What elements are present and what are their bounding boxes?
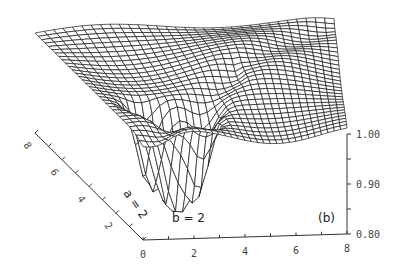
mesh-cell bbox=[328, 99, 336, 102]
mesh-cell bbox=[298, 94, 306, 99]
mesh-cell bbox=[317, 27, 327, 32]
z-axis: 0.800.901.00 bbox=[347, 129, 380, 240]
y-tick bbox=[62, 157, 65, 160]
surface-mesh bbox=[35, 18, 347, 212]
y-tick bbox=[103, 197, 106, 200]
mesh-cell bbox=[286, 103, 294, 108]
x-tick-label: 6 bbox=[293, 245, 299, 256]
y-tick bbox=[76, 170, 79, 173]
panel-label: (b) bbox=[318, 211, 335, 225]
mesh-cell bbox=[306, 99, 314, 103]
x-tick-label: 2 bbox=[191, 248, 197, 259]
mesh-cell bbox=[309, 36, 319, 40]
mesh-cell bbox=[321, 99, 329, 103]
mesh-cell bbox=[283, 94, 291, 99]
x-tick-label: 0 bbox=[140, 249, 146, 260]
mesh-cell bbox=[328, 96, 336, 99]
mesh-cell bbox=[288, 22, 298, 26]
mesh-cell bbox=[313, 95, 321, 99]
y-tick bbox=[130, 224, 133, 227]
mesh-cell bbox=[325, 23, 335, 28]
y-tick bbox=[116, 210, 119, 213]
y-tick-label: 2 bbox=[102, 220, 114, 231]
mesh-cell bbox=[301, 39, 311, 43]
y-tick bbox=[35, 130, 38, 133]
y-tick-label: 8 bbox=[21, 140, 33, 151]
x-tick-label: 8 bbox=[344, 243, 350, 254]
annotation-b: b = 2 bbox=[172, 211, 205, 225]
mesh-cell bbox=[299, 99, 307, 103]
z-tick-label: 0.80 bbox=[356, 229, 380, 240]
mesh-cell bbox=[291, 94, 299, 99]
mesh-cell bbox=[306, 95, 314, 99]
mesh-cell bbox=[335, 96, 343, 99]
y-tick-label: 6 bbox=[48, 167, 60, 178]
y-tick bbox=[89, 184, 92, 187]
z-tick-label: 0.90 bbox=[356, 179, 380, 190]
y-tick bbox=[49, 143, 52, 146]
y-axis: 2468 bbox=[21, 130, 146, 240]
mesh-cell bbox=[241, 38, 251, 41]
z-tick-label: 1.00 bbox=[356, 129, 380, 140]
mesh-cell bbox=[328, 40, 337, 44]
annotation-a: a = 2 bbox=[121, 187, 151, 222]
x-tick-label: 4 bbox=[242, 246, 248, 257]
mesh-cell bbox=[314, 99, 322, 103]
mesh-cell bbox=[320, 96, 328, 100]
y-tick-label: 4 bbox=[75, 193, 87, 204]
x-axis: 02468 bbox=[140, 231, 350, 260]
surface-plot: 2468 02468 0.800.901.00 a = 2 b = 2 (b) bbox=[0, 0, 402, 276]
mesh-cell bbox=[292, 99, 300, 104]
